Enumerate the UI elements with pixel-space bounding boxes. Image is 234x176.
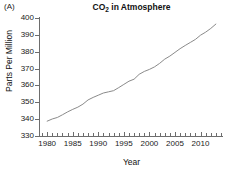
y-axis-tick [35, 69, 39, 70]
chart-title-suffix: in Atmosphere [109, 2, 171, 12]
y-axis-tick-label: 340 [4, 115, 34, 123]
plot-area [40, 18, 222, 136]
x-axis-tick-label: 2010 [184, 139, 218, 148]
co2-line-series [40, 18, 222, 136]
y-axis-tick [35, 52, 39, 53]
y-axis-tick [35, 119, 39, 120]
co2-chart-figure: (A) CO2 in Atmosphere 330340350360370380… [0, 0, 234, 176]
y-axis-tick [35, 136, 39, 137]
y-axis-tick [35, 102, 39, 103]
y-axis-label: Parts Per Million [4, 19, 14, 103]
chart-title: CO2 in Atmosphere [40, 2, 223, 13]
co2-line-path [47, 24, 216, 121]
x-axis-line [39, 136, 223, 137]
chart-title-subscript: 2 [105, 6, 109, 13]
x-axis-label: Year [40, 157, 223, 167]
y-axis-tick [35, 18, 39, 19]
y-axis-tick [35, 35, 39, 36]
chart-title-prefix: CO [93, 2, 106, 12]
y-axis-tick [35, 85, 39, 86]
panel-letter: (A) [4, 2, 15, 12]
